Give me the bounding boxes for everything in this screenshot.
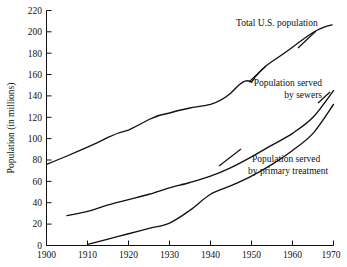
y-tick-label: 80 [33, 155, 43, 165]
x-tick-labels: 1900 1910 1920 1930 1940 1950 1960 1970 [37, 250, 341, 260]
x-tick-label: 1970 [322, 250, 341, 260]
x-tick-label: 1920 [119, 250, 138, 260]
x-tick-label: 1900 [37, 250, 56, 260]
y-tick-label: 40 [33, 198, 43, 208]
y-tick-label: 180 [28, 49, 43, 59]
y-tick-label: 160 [28, 70, 43, 80]
y-tick-label: 120 [28, 113, 43, 123]
annotation-label-total-us-population: Total U.S. population [236, 18, 318, 28]
annotation-population-served-by-primary-treatment: Population served by primary treatment [219, 149, 329, 176]
y-axis-title: Population (in millions) [6, 83, 17, 174]
y-tick-label: 220 [28, 6, 43, 16]
y-tick-labels: 0 20 40 60 80 100 120 140 160 180 200 22… [28, 6, 43, 251]
y-tick-label: 100 [28, 134, 43, 144]
x-tick-label: 1940 [201, 250, 220, 260]
annotation-population-served-by-sewers: Population served by sewers [249, 66, 330, 103]
y-tick-label: 140 [28, 91, 43, 101]
chart-figure: 0 20 40 60 80 100 120 140 160 180 200 22… [0, 0, 347, 267]
y-tick-label: 200 [28, 27, 43, 37]
y-tick-label: 20 [33, 219, 43, 229]
x-tick-label: 1960 [283, 250, 302, 260]
x-tick-label: 1910 [78, 250, 97, 260]
annotation-total-us-population: Total U.S. population [236, 18, 318, 48]
line-chart: 0 20 40 60 80 100 120 140 160 180 200 22… [0, 0, 347, 267]
annotation-label-primary-line2: by primary treatment [248, 166, 329, 176]
y-tick-label: 60 [33, 177, 43, 187]
annotation-label-primary-line1: Population served [252, 154, 321, 164]
x-tick-label: 1930 [160, 250, 179, 260]
annotation-label-sewers-line2: by sewers [284, 90, 322, 100]
annotation-label-sewers-line1: Population served [254, 78, 323, 88]
x-tick-label: 1950 [242, 250, 261, 260]
x-tick-marks [47, 241, 334, 246]
y-tick-marks [47, 11, 52, 246]
